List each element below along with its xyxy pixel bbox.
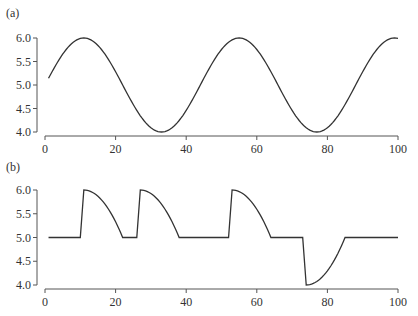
svg-text:5.5: 5.5 [16,207,31,221]
chart-panel-b: (b) 6.05.55.04.54.0 020406080100 [6,160,407,309]
svg-text:0: 0 [42,295,48,309]
svg-text:40: 40 [180,142,192,156]
svg-text:100: 100 [389,295,407,309]
x-axis-b: 020406080100 [42,289,407,309]
svg-text:0: 0 [42,142,48,156]
svg-text:20: 20 [110,295,122,309]
svg-text:6.0: 6.0 [16,31,31,45]
y-axis-b: 6.05.55.04.54.0 [16,183,37,292]
pulse-curve [49,190,398,285]
svg-text:20: 20 [110,142,122,156]
svg-text:4.0: 4.0 [16,278,31,292]
chart-figure: (a) 6.05.55.04.54.0 020406080100 (b) 6.0… [0,0,418,316]
chart-panel-a: (a) 6.05.55.04.54.0 020406080100 [6,6,407,156]
svg-text:5.5: 5.5 [16,55,31,69]
panel-label-a: (a) [6,6,19,20]
svg-text:4.5: 4.5 [16,102,31,116]
svg-text:5.0: 5.0 [16,231,31,245]
panel-label-b: (b) [6,160,20,174]
sine-curve [49,38,398,132]
svg-text:60: 60 [251,142,263,156]
svg-text:100: 100 [389,142,407,156]
svg-text:6.0: 6.0 [16,183,31,197]
svg-text:4.0: 4.0 [16,125,31,139]
svg-text:60: 60 [251,295,263,309]
svg-text:5.0: 5.0 [16,78,31,92]
y-axis-a: 6.05.55.04.54.0 [16,31,37,139]
svg-text:80: 80 [321,295,333,309]
svg-text:40: 40 [180,295,192,309]
svg-text:80: 80 [321,142,333,156]
x-axis-a: 020406080100 [42,136,407,156]
svg-text:4.5: 4.5 [16,254,31,268]
